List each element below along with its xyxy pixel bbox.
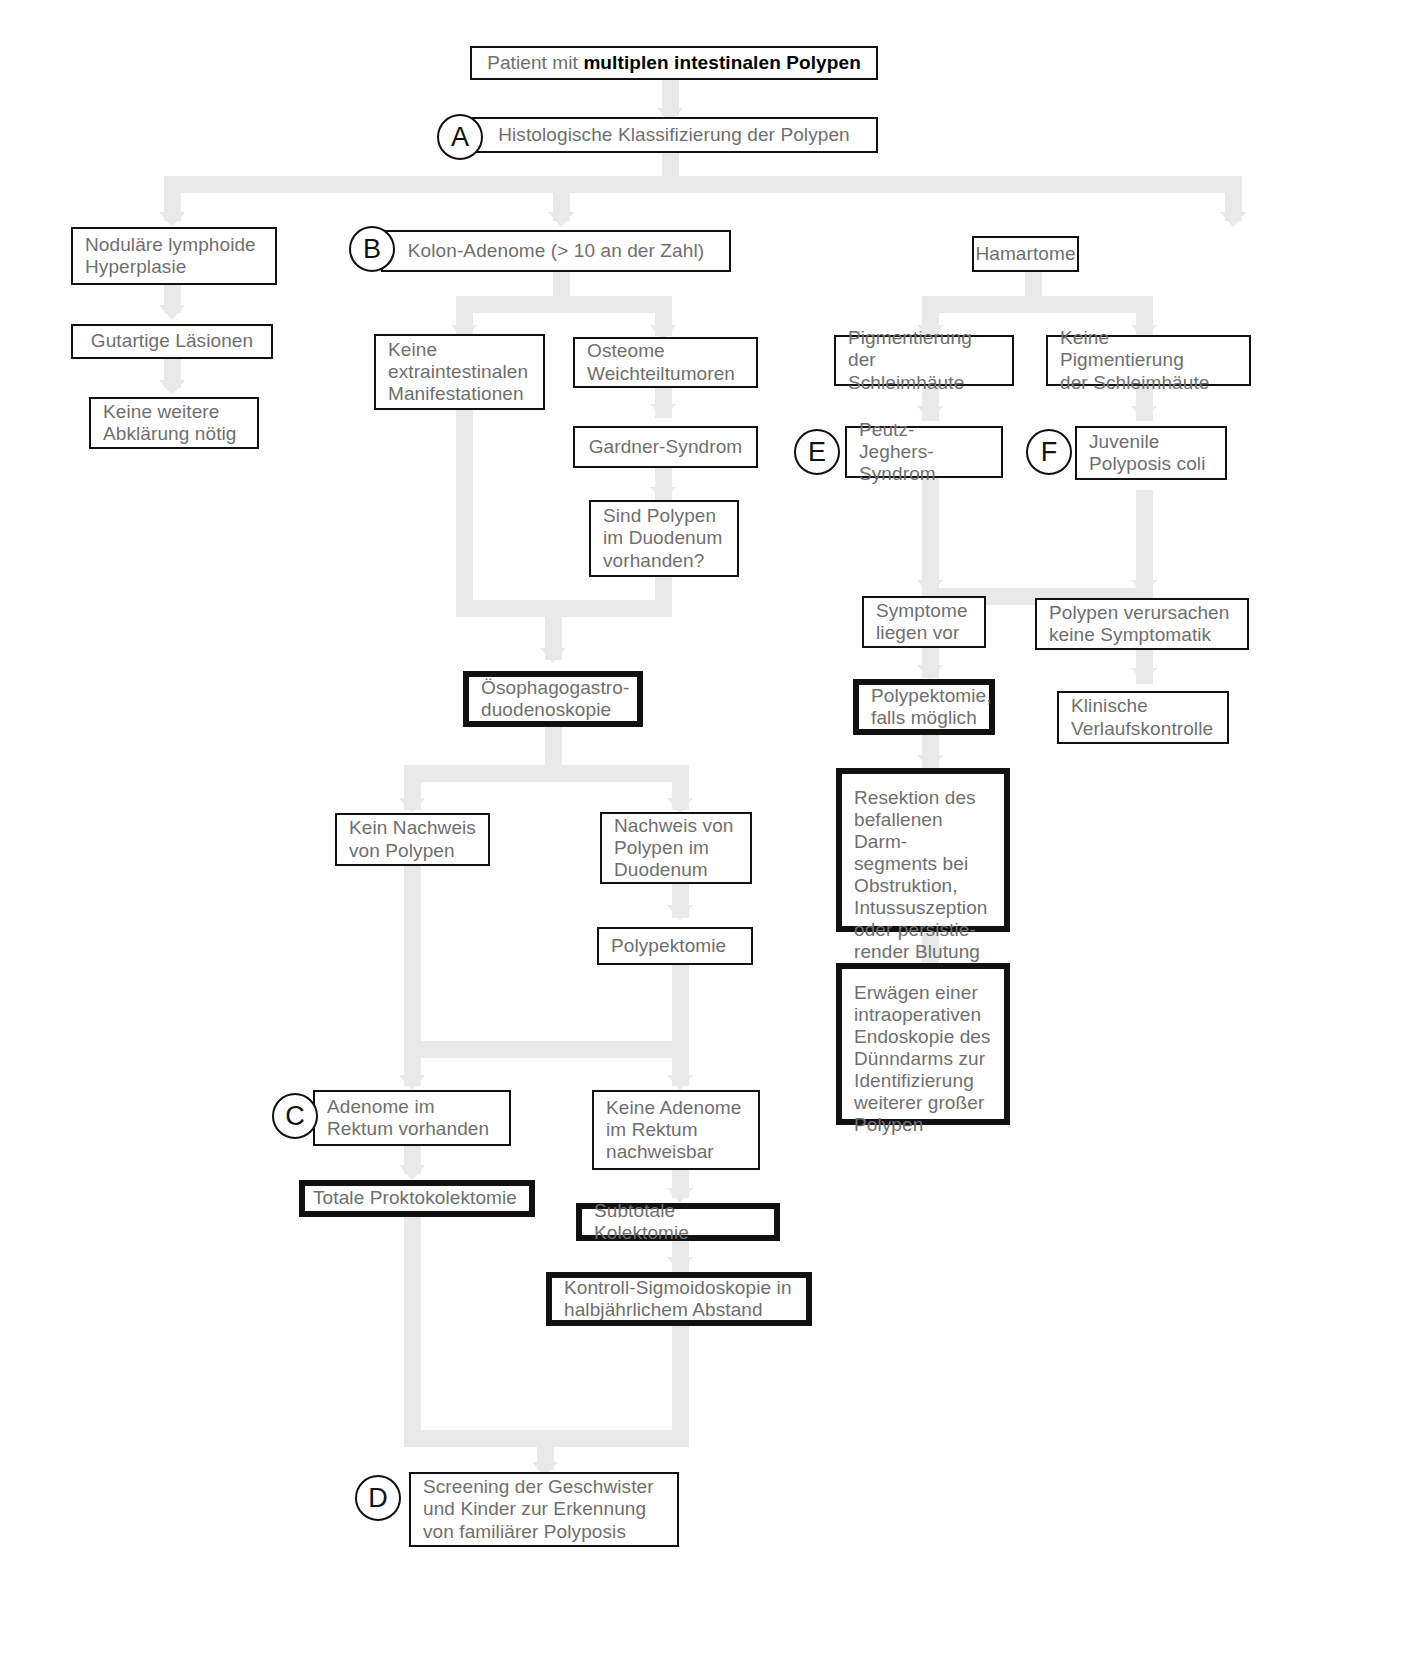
arrowhead-gutartige-to-keineweitere	[159, 380, 185, 395]
node-patient-prefix: Patient mit	[487, 52, 583, 73]
node-kein-nachweis-polypen: Kein Nachweis von Polypen	[335, 813, 490, 866]
node-erwaegen-intraoperative-endoskopie: Erwägen einer intraoperativen Endoskopie…	[836, 963, 1010, 1125]
node-hamartome-label: Hamartome	[975, 243, 1075, 265]
arrowhead-subtotale-to-kontroll	[667, 1257, 693, 1272]
node-pigmentierung-label: Pigmentierung der Schleimhäute	[848, 327, 1000, 393]
node-totale-proktokolektomie-border	[299, 1180, 535, 1217]
node-pigmentierung-schleimhaeute: Pigmentierung der Schleimhäute	[834, 335, 1014, 386]
marker-f: F	[1026, 429, 1072, 475]
arrowhead-to-kolon	[548, 212, 574, 227]
arrowhead-to-nachweis	[667, 798, 693, 813]
connector-keinnachweis-down	[404, 866, 421, 1041]
arrowhead-keinepigmentierung-to-juvenile	[1131, 406, 1157, 421]
node-nachweis-label: Nachweis von Polypen im Duodenum	[614, 815, 733, 881]
node-patient: Patient mit multiplen intestinalen Polyp…	[470, 46, 878, 80]
node-nodulaere-label: Noduläre lymphoide Hyperplasie	[85, 234, 256, 278]
node-adenome-rektum-label: Adenome im Rektum vorhanden	[327, 1096, 489, 1140]
node-keine-adenome-im-rektum: Keine Adenome im Rektum nachweisbar	[592, 1090, 760, 1170]
node-klinische-verlaufskontrolle: Klinische Verlaufskontrolle	[1057, 691, 1229, 744]
connector-totale-down	[404, 1215, 421, 1430]
node-kolon-adenome: Kolon-Adenome (> 10 an der Zahl)	[381, 230, 731, 272]
marker-a: A	[437, 114, 483, 160]
arrowhead-nachweis-to-polypektomie	[667, 905, 693, 920]
node-kein-nachweis-label: Kein Nachweis von Polypen	[349, 817, 476, 861]
node-juvenile-polyposis-coli: Juvenile Polyposis coli	[1075, 426, 1227, 480]
arrowhead-to-symptome	[917, 580, 943, 595]
flowchart-canvas: A B C D E F Patient mit multiplen intest…	[0, 0, 1413, 1666]
node-keine-pigmentierung-schleimhaeute: Keine Pigmentierung der Schleimhäute	[1046, 335, 1251, 386]
node-keine-weitere-label: Keine weitere Abklärung nötig	[103, 401, 237, 445]
arrowhead-to-nodulaere	[159, 212, 185, 227]
node-polypektomie-falls-moeglich: Polypektomie, falls möglich	[853, 679, 995, 735]
connector-juvenile-down	[1136, 490, 1153, 588]
node-juvenile-label: Juvenile Polyposis coli	[1089, 431, 1206, 475]
arrowhead-symptome-to-polypektomiefalls	[917, 665, 943, 680]
marker-e: E	[794, 429, 840, 475]
node-symptome-liegen-vor: Symptome liegen vor	[862, 596, 986, 648]
arrowhead-to-oegd	[540, 648, 566, 663]
node-erwaegen-label: Erwägen einer intraoperativen Endoskopie…	[854, 982, 991, 1136]
node-polypen-keine-symptomatik-label: Polypen verursachen keine Symptomatik	[1049, 602, 1229, 646]
node-gardner-label: Gardner-Syndrom	[589, 436, 743, 458]
node-nachweis-polypen-duodenum: Nachweis von Polypen im Duodenum	[600, 812, 752, 884]
connector-rektum-bar	[404, 1041, 689, 1058]
node-klinische-label: Klinische Verlaufskontrolle	[1071, 695, 1213, 739]
node-patient-emphasis: multiplen intestinalen Polypen	[583, 52, 860, 73]
node-polypen-keine-symptomatik: Polypen verursachen keine Symptomatik	[1035, 598, 1249, 650]
node-polypektomie: Polypektomie	[597, 927, 753, 965]
node-oesophagogastroduodenoskopie: Ösophagogastro- duodenoskopie	[463, 671, 643, 727]
node-symptome-label: Symptome liegen vor	[876, 600, 968, 644]
node-histologische-label: Histologische Klassifizierung der Polype…	[498, 124, 850, 146]
node-peutz-jeghers-syndrom: Peutz-Jeghers- Syndrom	[845, 426, 1003, 478]
node-histologische-klassifizierung: Histologische Klassifizierung der Polype…	[470, 117, 878, 153]
arrowhead-osteome-to-gardner	[650, 404, 676, 419]
connector-level1-bar	[164, 176, 1234, 193]
node-gutartige-label: Gutartige Läsionen	[91, 330, 253, 352]
node-osteome-weichteiltumoren: Osteome Weichteiltumoren	[573, 337, 758, 388]
node-gutartige-laesionen: Gutartige Läsionen	[71, 324, 273, 359]
node-screening-label: Screening der Geschwister und Kinder zur…	[423, 1476, 654, 1542]
node-osteome-label: Osteome Weichteiltumoren	[587, 340, 735, 384]
node-screening-geschwister: Screening der Geschwister und Kinder zur…	[409, 1472, 679, 1547]
marker-b: B	[349, 226, 395, 272]
node-keine-extraintestinalen: Keine extraintestinalen Manifestationen	[374, 334, 545, 410]
arrowhead-to-hamartome	[1220, 212, 1246, 227]
node-subtotale-label: Subtotale Kolektomie	[594, 1200, 762, 1244]
node-resektion-label: Resektion des befallenen Darm- segments …	[854, 787, 992, 963]
node-nodulaere-hyperplasie: Noduläre lymphoide Hyperplasie	[71, 227, 277, 285]
marker-c: C	[272, 1093, 318, 1139]
node-keine-weitere-abklaerung: Keine weitere Abklärung nötig	[89, 397, 259, 449]
connector-kolon-bar	[456, 296, 672, 313]
arrowhead-to-keineadenome	[667, 1075, 693, 1090]
arrowhead-to-adenomerektum	[399, 1075, 425, 1090]
node-kontroll-sigmoidoskopie: Kontroll-Sigmoidoskopie in halbjährliche…	[546, 1272, 812, 1326]
connector-sindpolypen-down	[655, 577, 672, 600]
node-polypektomie-label: Polypektomie	[611, 935, 726, 957]
node-resektion-darmsegment: Resektion des befallenen Darm- segments …	[836, 768, 1010, 932]
node-sind-polypen-label: Sind Polypen im Duodenum vorhanden?	[603, 505, 722, 571]
node-sind-polypen-duodenum: Sind Polypen im Duodenum vorhanden?	[589, 500, 739, 577]
node-hamartome: Hamartome	[972, 236, 1079, 272]
node-gardner-syndrom: Gardner-Syndrom	[573, 426, 758, 468]
node-polypektomie-falls-label: Polypektomie, falls möglich	[871, 685, 992, 729]
node-keine-extra-label: Keine extraintestinalen Manifestationen	[388, 339, 528, 405]
node-keine-pigmentierung-label: Keine Pigmentierung der Schleimhäute	[1060, 327, 1237, 393]
connector-kontroll-down	[672, 1326, 689, 1430]
node-adenome-im-rektum: Adenome im Rektum vorhanden	[313, 1090, 511, 1146]
marker-d: D	[355, 1475, 401, 1521]
node-peutz-label: Peutz-Jeghers- Syndrom	[859, 419, 989, 485]
node-subtotale-kolektomie: Subtotale Kolektomie	[576, 1203, 780, 1241]
connector-keineextra-down	[456, 410, 473, 600]
connector-merge-to-oegd	[456, 600, 672, 617]
arrowhead-to-keinnachweis	[399, 798, 425, 813]
node-kontroll-label: Kontroll-Sigmoidoskopie in halbjährliche…	[564, 1277, 792, 1321]
node-keine-adenome-rektum-label: Keine Adenome im Rektum nachweisbar	[606, 1097, 741, 1163]
connector-polypektomie-down	[672, 965, 689, 1041]
arrowhead-nodulaere-to-gutartige	[159, 305, 185, 320]
arrowhead-to-polypenkeine	[1131, 580, 1157, 595]
connector-oegd-bar	[404, 765, 689, 782]
node-oegd-label: Ösophagogastro- duodenoskopie	[481, 677, 629, 721]
arrowhead-adenome-to-totale	[399, 1165, 425, 1180]
node-kolon-label: Kolon-Adenome (> 10 an der Zahl)	[408, 240, 704, 262]
connector-hamartome-bar	[922, 296, 1153, 313]
